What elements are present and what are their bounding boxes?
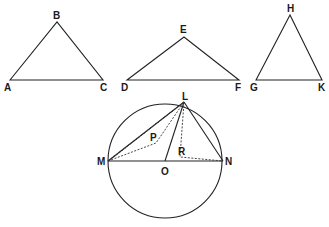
label-f: F	[235, 82, 241, 93]
label-c: C	[100, 82, 107, 93]
label-m: M	[97, 156, 105, 167]
label-g: G	[250, 82, 258, 93]
triangle-def	[127, 37, 239, 80]
geometry-figure: A B C D E F G H K L M N O P R	[0, 0, 329, 227]
label-p: P	[150, 132, 157, 143]
label-h: H	[287, 3, 294, 14]
label-d: D	[121, 82, 128, 93]
label-r: R	[178, 146, 186, 157]
label-n: N	[225, 156, 232, 167]
label-o: O	[161, 166, 169, 177]
label-k: K	[318, 82, 326, 93]
triangle-ghk	[256, 15, 322, 80]
label-e: E	[180, 24, 187, 35]
label-b: B	[53, 10, 60, 21]
label-a: A	[4, 82, 11, 93]
label-l: L	[182, 91, 188, 102]
triangle-abc	[10, 22, 103, 80]
chord-ln	[184, 102, 223, 161]
